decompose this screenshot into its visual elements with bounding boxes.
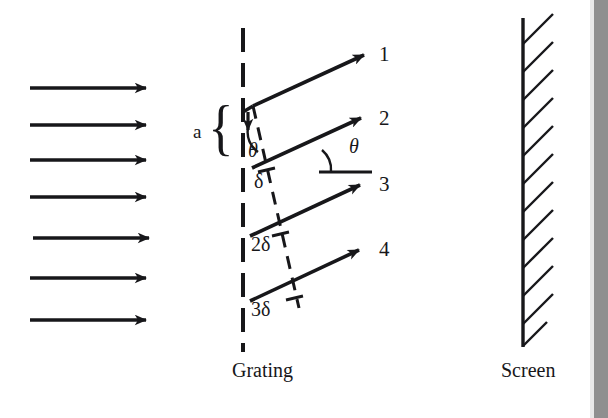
screen-hatch [523, 210, 553, 240]
angle-label-at-grating: θ [248, 140, 258, 160]
grating-caption: Grating [232, 360, 293, 380]
screen-hatch [523, 266, 553, 296]
path-difference-tick [272, 232, 289, 236]
angle-arc-at-ray [322, 150, 331, 172]
diffracted-ray-1 [253, 55, 364, 106]
diffraction-grating-diagram [0, 0, 608, 418]
slit-spacing-brace: { [208, 96, 233, 158]
angle-label-at-ray: θ [349, 136, 359, 156]
scan-edge-band [594, 0, 608, 418]
screen-hatching [523, 14, 553, 346]
path-difference-tick [286, 296, 303, 300]
screen-hatch [523, 98, 553, 128]
diffracted-ray-2 [252, 118, 361, 168]
ray-label-4: 4 [379, 239, 390, 260]
ray-label-3: 3 [379, 174, 390, 195]
screen-hatch [523, 42, 553, 72]
screen-hatch [523, 70, 553, 100]
screen-hatch [523, 126, 553, 156]
screen-hatch [523, 154, 553, 184]
path-difference-label-delta: δ [254, 171, 263, 191]
figure-canvas: { a θ θ δ 2δ 3δ 1 2 3 4 Grating Screen [0, 0, 608, 418]
wavefront-construction-line [253, 106, 299, 308]
slit-spacing-label: a [193, 122, 201, 141]
screen-caption: Screen [501, 360, 555, 380]
screen-hatch [523, 322, 547, 346]
diffracted-rays [250, 55, 364, 301]
screen-hatch [523, 182, 553, 212]
diffracted-ray-4 [250, 250, 359, 301]
path-difference-label-2delta: 2δ [251, 234, 270, 254]
ray-label-1: 1 [379, 44, 390, 65]
diffracted-ray-3 [250, 185, 360, 236]
incoming-beam-arrows [30, 88, 149, 320]
screen-hatch [523, 294, 553, 324]
screen-hatch [523, 238, 553, 268]
path-difference-label-3delta: 3δ [251, 299, 270, 319]
screen-hatch [523, 14, 553, 44]
ray-label-2: 2 [379, 108, 390, 129]
